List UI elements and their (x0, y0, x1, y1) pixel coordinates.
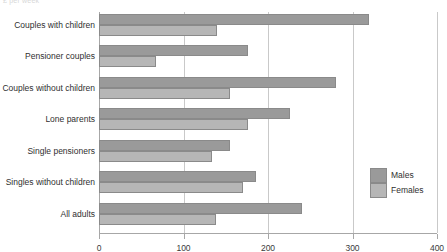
bar-females (99, 25, 217, 36)
legend-swatch-females-icon (370, 183, 387, 198)
legend-item-males: Males (370, 168, 444, 183)
bar-chart: £ per week Couples with childrenPensione… (0, 0, 447, 252)
legend-label-males: Males (391, 170, 414, 180)
bar-males (99, 171, 256, 182)
plot-area: 0100200300400 (99, 12, 437, 234)
bar-males (99, 45, 248, 56)
bar-females (99, 214, 216, 225)
bar-males (99, 140, 230, 151)
x-tick-label: 100 (176, 243, 190, 252)
x-tick-label: 200 (261, 243, 275, 252)
y-axis-label: Pensioner couples (25, 51, 95, 61)
legend: Males Females (370, 168, 444, 198)
bar-group (99, 14, 437, 36)
x-tick-300 (353, 234, 354, 239)
bar-males (99, 77, 336, 88)
bar-group (99, 140, 437, 162)
bar-group (99, 203, 437, 225)
y-axis-label: Couples with children (14, 20, 95, 30)
bar-males (99, 108, 290, 119)
legend-swatch-males-icon (370, 168, 387, 183)
x-tick-100 (184, 234, 185, 239)
y-axis-label: Lone parents (45, 114, 95, 124)
bar-females (99, 182, 243, 193)
legend-label-females: Females (391, 185, 424, 195)
x-tick-label: 300 (345, 243, 359, 252)
top-caption: £ per week (3, 0, 39, 5)
bar-females (99, 56, 156, 67)
bar-group (99, 108, 437, 130)
legend-item-females: Females (370, 183, 444, 198)
bar-males (99, 14, 369, 25)
bar-females (99, 88, 230, 99)
y-axis-label: Singles without children (6, 177, 95, 187)
bar-males (99, 203, 302, 214)
x-tick-label: 400 (430, 243, 444, 252)
x-tick-0 (99, 234, 100, 239)
x-tick-label: 0 (97, 243, 102, 252)
bar-females (99, 119, 248, 130)
bar-females (99, 151, 212, 162)
gridline-400 (437, 12, 438, 233)
bar-group (99, 77, 437, 99)
y-axis-label: All adults (61, 209, 96, 219)
y-axis-label: Couples without children (2, 83, 95, 93)
x-tick-400 (437, 234, 438, 239)
x-tick-200 (268, 234, 269, 239)
y-axis-label: Single pensioners (27, 146, 95, 156)
bar-group (99, 45, 437, 67)
